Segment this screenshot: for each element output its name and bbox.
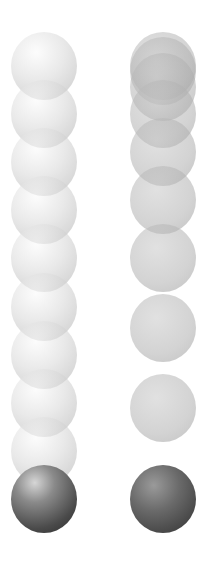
- ball-ghost-position: [130, 224, 196, 292]
- motion-strobe-diagram: [0, 0, 216, 561]
- ball-final-position: [11, 465, 77, 533]
- ball-ghost-position: [130, 294, 196, 362]
- ball-final-position: [130, 465, 196, 533]
- ball-ghost-position: [130, 374, 196, 442]
